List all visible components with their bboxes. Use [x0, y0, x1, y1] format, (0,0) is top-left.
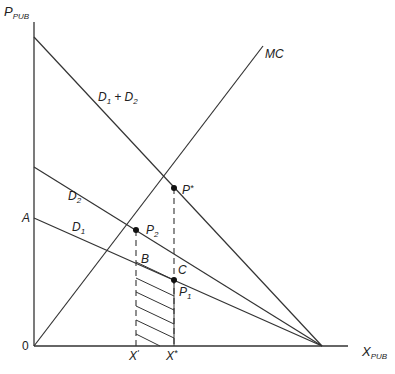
- d2-curve: [34, 167, 322, 346]
- p2-label: P2: [146, 223, 159, 239]
- d2-label: D2: [68, 189, 82, 205]
- x-prime-label: X': [128, 348, 139, 363]
- d1-label: D1: [72, 220, 85, 236]
- p1-point: [171, 277, 177, 283]
- c-label: C: [178, 263, 187, 277]
- x-star-label: X*: [165, 348, 178, 363]
- hatched-region: [136, 262, 174, 346]
- d1-plus-d2-label: D1+ D2: [98, 90, 138, 106]
- b-label: B: [141, 252, 149, 266]
- x-axis-label: XPUB: [361, 344, 388, 361]
- d1-curve: [34, 218, 322, 346]
- a-label: A: [21, 211, 30, 225]
- p2-point: [133, 227, 139, 233]
- origin-label: 0: [22, 339, 29, 353]
- d1-plus-d2-curve: [34, 37, 322, 346]
- y-axis-label: PPUB: [4, 4, 30, 21]
- p-star-point: [171, 185, 177, 191]
- p-star-label: P*: [182, 183, 194, 197]
- public-goods-chart: PPUB XPUB 0 D1+ D2 MC D2 D1 A P* P2 P1 B…: [0, 0, 395, 374]
- mc-label: MC: [265, 47, 284, 61]
